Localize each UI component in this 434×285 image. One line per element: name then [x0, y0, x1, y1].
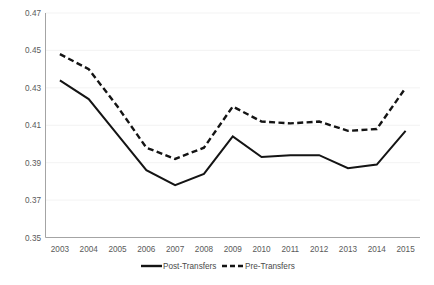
y-axis-tick-label: 0.39 — [25, 159, 41, 168]
line-chart: 0.350.370.390.410.430.450.47 20032004200… — [0, 0, 434, 285]
y-axis-tick-label: 0.43 — [25, 84, 41, 93]
x-axis-tick-label: 2006 — [137, 245, 156, 254]
x-axis-tick-label: 2008 — [195, 245, 214, 254]
x-axis-tick-label: 2007 — [166, 245, 185, 254]
x-axis-tick-label: 2014 — [368, 245, 387, 254]
x-axis-tick-label: 2013 — [339, 245, 358, 254]
chart-background — [0, 0, 434, 285]
y-axis-tick-label: 0.35 — [25, 234, 41, 243]
x-axis-tick-label: 2011 — [282, 245, 300, 254]
x-axis-tick-label: 2004 — [80, 245, 99, 254]
x-axis-tick-label: 2005 — [108, 245, 127, 254]
x-axis-tick-label: 2010 — [252, 245, 271, 254]
chart-canvas: 0.350.370.390.410.430.450.47 20032004200… — [0, 0, 434, 285]
legend-label-pre-transfers: Pre-Transfers — [245, 262, 295, 271]
y-axis-tick-label: 0.41 — [25, 121, 41, 130]
legend-label-post-transfers: Post-Transfers — [163, 262, 216, 271]
x-axis-tick-label: 2003 — [51, 245, 70, 254]
y-axis-tick-label: 0.47 — [25, 9, 41, 18]
x-axis-tick-label: 2015 — [396, 245, 415, 254]
x-axis-tick-label: 2012 — [310, 245, 329, 254]
x-axis-tick-label: 2009 — [224, 245, 243, 254]
y-axis-tick-label: 0.45 — [25, 46, 41, 55]
y-axis-tick-label: 0.37 — [25, 196, 41, 205]
